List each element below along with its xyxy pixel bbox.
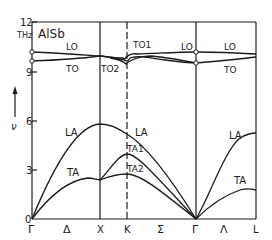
- chart-title: AlSb: [38, 27, 65, 41]
- ytick-3: 3: [26, 165, 32, 176]
- to-gamma-marker: [30, 59, 34, 63]
- ytick-9: 9: [26, 67, 32, 78]
- xlabel-l: L: [253, 224, 259, 235]
- y-unit: THz: [16, 31, 32, 40]
- xlabel-gamma-1: Γ: [28, 223, 35, 236]
- phonon-dispersion-chart: 12 9 6 3 0 THz ν AlSb Γ Δ X K Σ Γ Λ L: [0, 0, 272, 240]
- curve-ta-right: [196, 189, 256, 219]
- x-axis-labels: Γ Δ X K Σ Γ Λ L: [28, 223, 259, 236]
- y-axis-label: ν: [11, 121, 17, 132]
- xlabel-sigma: Σ: [157, 223, 164, 236]
- label-to-right: TO: [223, 65, 237, 75]
- label-to2: TO2: [100, 64, 119, 74]
- ytick-12: 12: [20, 17, 33, 28]
- curve-ta-left: [32, 178, 100, 219]
- curve-la-left: [32, 124, 196, 219]
- xlabel-lambda: Λ: [220, 223, 228, 236]
- label-la-right: LA: [229, 130, 242, 141]
- label-to1: TO1: [132, 40, 151, 50]
- curve-ta1: [100, 154, 196, 219]
- xlabel-k: K: [124, 224, 131, 235]
- label-lo-left: LO: [66, 42, 78, 52]
- xlabel-x: X: [97, 224, 104, 235]
- label-la-left: LA: [65, 127, 78, 138]
- label-la-k: LA: [135, 127, 148, 138]
- xlabel-gamma-2: Γ: [192, 223, 199, 236]
- xlabel-delta: Δ: [63, 223, 71, 236]
- lo-gamma-marker-2: [194, 50, 198, 54]
- curve-la-right: [196, 133, 256, 219]
- ytick-6: 6: [26, 116, 32, 127]
- label-lo-right: LO: [224, 42, 236, 52]
- label-lo-gamma: LO: [181, 42, 193, 52]
- label-ta-right: TA: [233, 175, 246, 186]
- to-gamma-marker-2: [194, 61, 198, 65]
- label-ta2-k: TA2: [126, 164, 144, 174]
- label-ta1-k: TA1: [126, 144, 144, 154]
- branch-labels: LO TO TO2 TO1 LO LO TO LA TA LA TA1 TA2 …: [65, 40, 246, 186]
- label-to-left: TO: [65, 64, 79, 74]
- lo-gamma-marker: [30, 50, 34, 54]
- y-axis-arrow-icon: [13, 86, 18, 117]
- label-ta-left: TA: [66, 167, 79, 178]
